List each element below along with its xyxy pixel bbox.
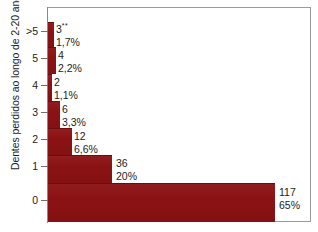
y-tick-mark: [41, 200, 48, 201]
bar-1: [48, 155, 112, 183]
bar-percent-3: 3,3%: [62, 116, 86, 129]
y-tick-mark: [41, 112, 48, 113]
bar-value-label-1: 36 20%: [116, 157, 137, 184]
footnote-marker: **: [62, 22, 68, 29]
bar-percent-4: 1,1%: [54, 89, 78, 102]
bar-count-0: 117: [279, 186, 300, 199]
y-tick-label-5: 5: [0, 52, 38, 64]
bar-2: [48, 128, 72, 155]
bar-gt5: [48, 22, 54, 47]
bar-value-label-4: 2 1,1%: [54, 76, 78, 103]
bar-count-3: 6: [62, 103, 86, 116]
bar-count-1: 36: [116, 157, 137, 170]
bar-value-label-3: 6 3,3%: [62, 103, 86, 130]
bar-count-2: 12: [74, 130, 98, 143]
bar-percent-2: 6,6%: [74, 143, 98, 156]
bar-value-label-2: 12 6,6%: [74, 130, 98, 157]
y-tick-label-4: 4: [0, 79, 38, 91]
y-tick-label-1: 1: [0, 160, 38, 172]
y-tick-label-0: 0: [0, 194, 38, 206]
bar-percent-5: 2,2%: [58, 62, 82, 75]
bar-value-label-0: 117 65%: [279, 186, 300, 213]
bar-count-4: 2: [54, 76, 78, 89]
bar-4: [48, 74, 52, 101]
y-tick-mark: [41, 31, 48, 32]
bar-percent-0: 65%: [279, 199, 300, 212]
y-tick-mark: [41, 166, 48, 167]
bar-5: [48, 47, 56, 74]
bar-0: [48, 183, 275, 222]
y-tick-label-gt5: >5: [0, 25, 38, 37]
bar-count-5: 4: [58, 49, 82, 62]
y-tick-mark: [41, 85, 48, 86]
y-tick-mark: [41, 139, 48, 140]
bar-percent-1: 20%: [116, 170, 137, 183]
bar-value-label-gt5: 3** 1,7%: [56, 22, 80, 49]
bar-count-gt5: 3**: [56, 22, 80, 36]
bar-value-label-5: 4 2,2%: [58, 49, 82, 76]
bar-3: [48, 101, 60, 128]
bar-percent-gt5: 1,7%: [56, 36, 80, 49]
y-tick-mark: [41, 58, 48, 59]
y-tick-label-3: 3: [0, 106, 38, 118]
bar-chart-figure: Dentes perdidos ao longo de 2-20 anos* >…: [0, 0, 318, 232]
y-tick-label-2: 2: [0, 133, 38, 145]
